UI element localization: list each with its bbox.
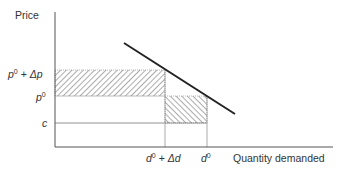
y-tick-c: c bbox=[42, 117, 48, 129]
y-axis-label: Price bbox=[15, 9, 39, 21]
price-gain-area bbox=[55, 70, 165, 96]
y-tick-p0-plus-dp: p0 + Δp bbox=[7, 68, 43, 80]
price-quantity-diagram: Price p0 + Δp p0 c d0 + Δd d0 Quantity d… bbox=[0, 0, 343, 171]
x-tick-d0-plus-dd: d0 + Δd bbox=[146, 152, 182, 164]
x-tick-d0: d0 bbox=[201, 152, 211, 164]
x-axis-label: Quantity demanded bbox=[233, 152, 325, 164]
quantity-loss-area bbox=[165, 96, 207, 123]
y-tick-p0: p0 bbox=[35, 91, 46, 103]
